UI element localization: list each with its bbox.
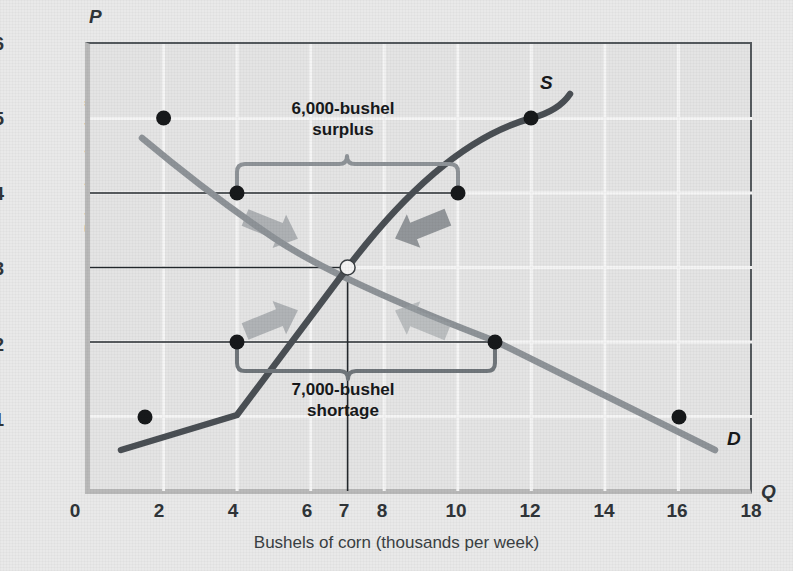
surplus-annotation: 6,000-bushel surplus xyxy=(223,99,463,140)
x-tick-14: 14 xyxy=(584,500,624,522)
x-tick-7: 7 xyxy=(324,500,364,522)
y-tick-2: 2 xyxy=(0,334,4,356)
y-tick-3: 3 xyxy=(0,258,4,280)
chart-figure: P Q $6 5 4 3 2 1 0 2 4 6 7 8 10 12 14 16… xyxy=(0,0,793,571)
equilibrium-point xyxy=(340,260,355,275)
supply-point-3 xyxy=(451,186,466,201)
x-tick-6: 6 xyxy=(287,500,327,522)
x-tick-8: 8 xyxy=(362,500,402,522)
surplus-annotation-line1: 6,000-bushel xyxy=(223,99,463,120)
shortage-annotation-line1: 7,000-bushel xyxy=(223,380,463,401)
x-tick-10: 10 xyxy=(436,500,476,522)
x-tick-0: 0 xyxy=(55,500,95,522)
demand-point-1 xyxy=(156,111,171,126)
supply-point-4 xyxy=(524,111,539,126)
surplus-annotation-line2: surplus xyxy=(223,120,463,141)
y-tick-1: 1 xyxy=(0,409,4,431)
x-tick-18: 18 xyxy=(731,500,771,522)
shortage-annotation: 7,000-bushel shortage xyxy=(223,380,463,421)
y-axis-letter: P xyxy=(89,6,102,28)
demand-point-4 xyxy=(672,410,687,425)
y-tick-6: $6 xyxy=(0,33,4,55)
x-tick-4: 4 xyxy=(213,500,253,522)
x-axis-title: Bushels of corn (thousands per week) xyxy=(0,533,793,553)
x-tick-16: 16 xyxy=(657,500,697,522)
shortage-annotation-line2: shortage xyxy=(223,401,463,422)
supply-curve-label: S xyxy=(540,72,553,94)
demand-curve-label: D xyxy=(727,428,741,450)
y-tick-4: 4 xyxy=(0,183,4,205)
demand-point-2 xyxy=(230,186,245,201)
demand-point-3 xyxy=(488,335,503,350)
surplus-bracket xyxy=(237,156,458,193)
x-tick-12: 12 xyxy=(510,500,550,522)
supply-point-1 xyxy=(138,410,153,425)
y-tick-5: 5 xyxy=(0,108,4,130)
x-tick-2: 2 xyxy=(139,500,179,522)
supply-point-2 xyxy=(230,335,245,350)
